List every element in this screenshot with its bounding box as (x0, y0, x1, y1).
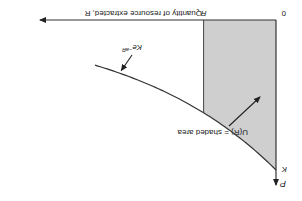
origin-label: 0 (281, 9, 286, 18)
diagram-stage: P K 0 R Quantity of resource extracted, … (0, 0, 302, 201)
curve-label-arrow (121, 55, 132, 70)
curve-label: Ke−aR (122, 43, 142, 53)
curve-label-exponent: −aR (122, 47, 132, 53)
curve-label-base: Ke (132, 43, 142, 52)
x-axis-label: Quantity of resource extracted, R (84, 9, 202, 18)
resource-diagram: P K 0 R Quantity of resource extracted, … (0, 0, 302, 201)
y-axis-label: P (280, 179, 286, 189)
y-intercept-label: K (281, 165, 287, 174)
shaded-area-u-r (204, 20, 276, 170)
shaded-area-label: U(R) = shaded area (177, 128, 248, 137)
